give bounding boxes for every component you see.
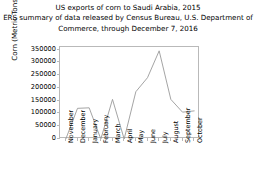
x-tick-mark: [65, 138, 66, 141]
x-tick-label: May: [137, 130, 145, 143]
x-tick-mark: [135, 138, 136, 141]
x-tick-label: November: [67, 110, 75, 143]
x-tick-mark: [100, 138, 101, 141]
x-axis-ticks: NovemberDecemberJanuaryFebruaryMarchApri…: [59, 138, 199, 181]
x-tick-label: August: [172, 121, 180, 143]
x-tick-mark: [158, 138, 159, 141]
x-tick-label: June: [149, 129, 157, 143]
x-tick-label: April: [126, 128, 134, 143]
x-tick-mark: [182, 138, 183, 141]
chart-title-line-1: US exports of corn to Saudi Arabia, 2015: [0, 3, 256, 13]
x-tick-label: December: [79, 110, 87, 143]
y-tick-label: 300000: [12, 57, 56, 65]
x-tick-label: March: [114, 124, 122, 143]
x-tick-label: September: [184, 108, 192, 143]
chart-title: US exports of corn to Saudi Arabia, 2015…: [0, 3, 256, 34]
chart-title-line-3: Commerce, through December 7, 2016: [0, 24, 256, 34]
x-tick-mark: [88, 138, 89, 141]
x-tick-mark: [77, 138, 78, 141]
y-axis-ticks: 3500003000002500002000001500001000005000…: [2, 46, 56, 138]
x-tick-mark: [123, 138, 124, 141]
y-tick-label: 50000: [12, 121, 56, 129]
x-tick-mark: [112, 138, 113, 141]
x-tick-mark: [147, 138, 148, 141]
chart-figure: US exports of corn to Saudi Arabia, 2015…: [0, 0, 256, 181]
x-tick-mark: [193, 138, 194, 141]
x-tick-label: February: [102, 115, 110, 143]
chart-title-line-2: ERS summary of data released by Census B…: [0, 13, 256, 23]
y-tick-label: 150000: [12, 96, 56, 104]
x-tick-label: July: [161, 132, 169, 144]
y-tick-label: 200000: [12, 83, 56, 91]
x-tick-label: January: [91, 119, 99, 143]
y-tick-label: 350000: [12, 45, 56, 53]
y-tick-label: 100000: [12, 108, 56, 116]
y-tick-label: 250000: [12, 70, 56, 78]
x-tick-mark: [170, 138, 171, 141]
y-tick-label: 0: [12, 134, 56, 142]
x-tick-label: October: [196, 117, 204, 143]
